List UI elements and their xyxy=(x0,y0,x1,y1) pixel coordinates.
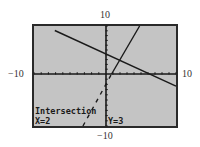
intersection-label: Intersection xyxy=(35,106,96,116)
intersection-y-value: Y=3 xyxy=(108,116,123,126)
calculator-graph-screen: Intersection X=2 Y=3 xyxy=(0,0,200,147)
intersection-x-value: X=2 xyxy=(35,116,50,126)
